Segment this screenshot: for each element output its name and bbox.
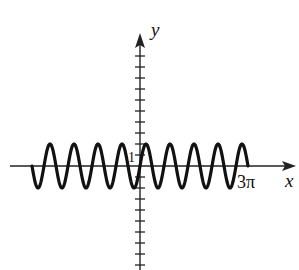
x-end-label: 3π [237, 172, 255, 192]
y-axis-label: y [149, 19, 160, 40]
sine-graph: y x 1 3π [0, 0, 299, 270]
y-unit-label: 1 [128, 150, 135, 165]
x-axis-label: x [284, 170, 294, 191]
